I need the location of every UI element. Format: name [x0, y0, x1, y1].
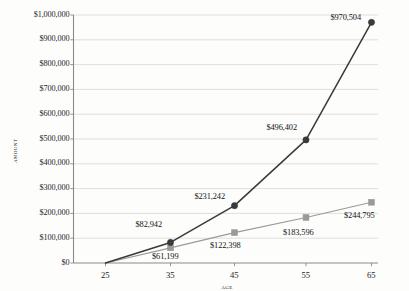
chart-container: $0 $100,000 $200,000 $300,000 $400,000 $…: [0, 0, 409, 291]
y-tick-label-0: $0: [62, 259, 70, 267]
data-label-dark-45: $231,242: [194, 193, 225, 201]
y-tick-label-10: $1,000,000: [34, 11, 70, 19]
x-axis-title: Age: [221, 283, 232, 290]
y-tick-label-9: $900,000: [40, 35, 70, 43]
data-label-light-55: $183,596: [283, 229, 314, 237]
data-label-dark-55: $496,402: [266, 124, 297, 132]
y-tick-label-7: $700,000: [40, 85, 70, 93]
chart-plot-area: [0, 0, 409, 291]
y-tick-label-8: $800,000: [40, 60, 70, 68]
axis-ticks: [70, 15, 371, 266]
x-tick-label-25: 25: [101, 271, 110, 280]
y-tick-label-3: $300,000: [40, 184, 70, 192]
y-tick-label-2: $200,000: [40, 209, 70, 217]
data-label-light-35: $61,199: [152, 253, 179, 261]
y-tick-label-5: $500,000: [40, 135, 70, 143]
data-label-light-65: $244,795: [344, 212, 375, 220]
gridlines: [74, 15, 379, 238]
x-tick-label-55: 55: [302, 271, 311, 280]
y-tick-label-4: $400,000: [40, 159, 70, 167]
data-label-light-45: $122,398: [210, 242, 241, 250]
y-tick-label-6: $600,000: [40, 110, 70, 118]
x-tick-label-45: 45: [230, 271, 239, 280]
data-label-dark-65: $970,504: [330, 14, 361, 22]
x-tick-label-35: 35: [166, 271, 175, 280]
y-axis-title: Amount: [11, 139, 18, 163]
x-tick-label-65: 65: [367, 271, 376, 280]
y-tick-label-1: $100,000: [40, 234, 70, 242]
data-label-dark-35: $82,942: [135, 221, 162, 229]
